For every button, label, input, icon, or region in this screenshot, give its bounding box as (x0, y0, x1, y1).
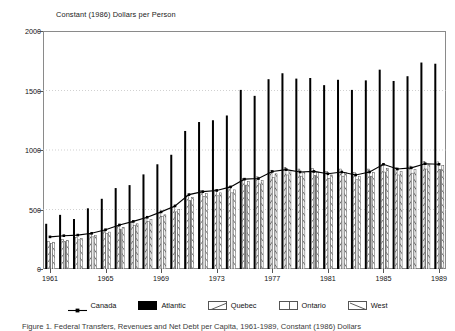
legend-item-west[interactable]: West (348, 301, 388, 310)
canada-marker-1961 (49, 236, 52, 239)
bar-west-1969 (164, 215, 166, 269)
legend-label: Quebec (231, 301, 257, 310)
bar-ontario-1973 (217, 196, 219, 269)
bar-ontario-1965 (106, 233, 108, 269)
bar-atlantic-1971 (184, 131, 186, 269)
legend-item-canada[interactable]: Canada (68, 301, 117, 310)
bars-layer (45, 63, 444, 269)
y-tick-mark (38, 269, 43, 270)
canada-marker-1969 (160, 211, 163, 214)
chart-figure: Constant (1986) Dollars per Person 05001… (0, 0, 455, 331)
canada-marker-1984 (368, 171, 371, 174)
plot-svg (43, 31, 446, 269)
bar-west-1974 (233, 190, 235, 269)
canada-marker-1987 (410, 167, 413, 170)
bar-ontario-1961 (50, 243, 52, 269)
bar-west-1972 (206, 193, 208, 269)
bar-west-1980 (317, 172, 319, 269)
bar-atlantic-1982 (337, 80, 339, 269)
bar-quebec-1971 (187, 195, 189, 269)
x-tick-mark (439, 269, 440, 273)
bar-west-1963 (80, 239, 82, 269)
bar-quebec-1974 (228, 187, 230, 269)
bar-west-1983 (358, 176, 360, 269)
canada-marker-1975 (243, 178, 246, 181)
bar-ontario-1986 (398, 175, 400, 269)
bar-west-1979 (303, 173, 305, 269)
canada-marker-1979 (299, 171, 302, 174)
x-tick-label: 1973 (197, 274, 237, 283)
x-tick-label: 1981 (308, 274, 348, 283)
bar-west-1975 (247, 182, 249, 269)
x-tick-label: 1985 (363, 274, 403, 283)
bar-atlantic-1972 (198, 122, 200, 269)
x-tick-label: 1969 (141, 274, 181, 283)
bar-atlantic-1969 (156, 164, 158, 269)
bar-atlantic-1966 (115, 188, 117, 269)
legend-item-atlantic[interactable]: Atlantic (138, 301, 185, 310)
legend-item-quebec[interactable]: Quebec (208, 301, 257, 310)
bar-atlantic-1961 (45, 224, 47, 269)
bar-atlantic-1967 (129, 185, 131, 269)
bar-ontario-1982 (342, 176, 344, 269)
bar-quebec-1986 (395, 168, 397, 269)
legend-label: Ontario (302, 301, 326, 310)
bar-west-1973 (219, 193, 221, 269)
canada-marker-1972 (202, 190, 205, 193)
bar-ontario-1988 (425, 169, 427, 269)
bar-atlantic-1983 (351, 90, 353, 269)
figure-caption: Figure 1. Federal Transfers, Revenues an… (22, 322, 442, 331)
canada-marker-1966 (118, 224, 121, 227)
canada-marker-1974 (229, 186, 232, 189)
bar-quebec-1969 (159, 213, 161, 269)
bar-quebec-1966 (117, 226, 119, 269)
canada-marker-1986 (396, 168, 399, 171)
legend-label: Canada (91, 301, 117, 310)
canada-marker-1964 (90, 232, 93, 235)
bar-quebec-1975 (242, 179, 244, 269)
bar-quebec-1967 (131, 222, 133, 269)
legend-item-ontario[interactable]: Ontario (279, 301, 326, 310)
bar-quebec-1983 (353, 173, 355, 269)
bar-west-1981 (331, 175, 333, 269)
bar-quebec-1964 (89, 234, 91, 269)
bar-ontario-1979 (300, 176, 302, 269)
bar-ontario-1966 (120, 229, 122, 269)
bar-atlantic-1970 (170, 155, 172, 269)
bar-ontario-1963 (78, 240, 80, 269)
bar-ontario-1980 (314, 176, 316, 269)
plot-area (43, 31, 446, 269)
bar-quebec-1962 (62, 239, 64, 269)
x-tick-mark (272, 269, 273, 273)
legend-pattern-swatch (348, 301, 367, 310)
bar-quebec-1988 (423, 161, 425, 269)
canada-marker-1965 (104, 228, 107, 231)
bar-west-1962 (67, 240, 69, 269)
bar-quebec-1977 (270, 170, 272, 269)
bar-atlantic-1985 (379, 70, 381, 269)
bar-quebec-1985 (381, 164, 383, 269)
bar-quebec-1968 (145, 218, 147, 269)
bar-quebec-1980 (312, 168, 314, 269)
bar-atlantic-1984 (365, 80, 367, 269)
bar-ontario-1962 (64, 242, 66, 269)
bar-ontario-1974 (231, 193, 233, 269)
canada-marker-1967 (132, 220, 135, 223)
bar-atlantic-1965 (101, 199, 103, 269)
bar-ontario-1984 (370, 176, 372, 269)
x-tick-label: 1977 (252, 274, 292, 283)
bar-west-1977 (275, 174, 277, 269)
canada-marker-1989 (438, 163, 441, 166)
bar-quebec-1961 (48, 242, 50, 269)
bar-west-1964 (94, 236, 96, 269)
legend-pattern-swatch (279, 301, 298, 310)
bar-west-1989 (442, 165, 444, 269)
bar-quebec-1981 (326, 171, 328, 269)
bar-ontario-1983 (356, 180, 358, 269)
bar-atlantic-1962 (59, 215, 61, 269)
x-tick-mark (328, 269, 329, 273)
canada-marker-1983 (354, 174, 357, 177)
bar-west-1971 (192, 198, 194, 269)
y-axis-title: Constant (1986) Dollars per Person (56, 10, 176, 19)
canada-marker-1977 (271, 170, 274, 173)
